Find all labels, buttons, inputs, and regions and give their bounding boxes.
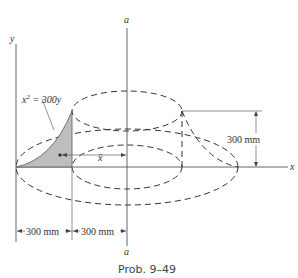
height-dimension-label: 300 mm [227, 134, 260, 145]
x-axis-label: x [289, 161, 295, 172]
arrow-right-icon [121, 229, 126, 233]
curve-equation: x2 = 300y [21, 93, 62, 105]
a-axis-top-label: a [124, 14, 129, 25]
shaded-area [16, 111, 72, 167]
left-width-label: 300 mm [26, 226, 59, 237]
arrow-left-icon [17, 229, 22, 233]
right-width-label: 300 mm [81, 226, 114, 237]
arrow-right-icon [66, 229, 71, 233]
y-axis-label: y [9, 33, 15, 44]
a-axis-bottom-label: a [124, 246, 129, 257]
figure-caption: Prob. 9–49 [118, 263, 176, 276]
arrow-up-icon [254, 111, 258, 116]
arrow-left-icon [73, 229, 78, 233]
arrow-down-icon [254, 162, 258, 167]
arrow-right-icon [121, 153, 126, 157]
centroid-label: x̄ [97, 152, 103, 163]
centroid-point [58, 153, 61, 156]
revolved-area-diagram: 300 mm x̄ x2 = 300y y a a x 300 mm 300 m… [0, 0, 298, 278]
